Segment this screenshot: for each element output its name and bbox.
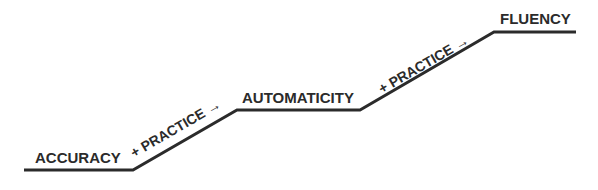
stage-label-accuracy: ACCURACY bbox=[35, 149, 121, 166]
stage-label-automaticity: AUTOMATICITY bbox=[242, 89, 354, 106]
transition-label-practice-1: + PRACTICE → bbox=[128, 96, 224, 161]
stage-label-fluency: FLUENCY bbox=[500, 10, 571, 27]
diagram-canvas: ACCURACY AUTOMATICITY FLUENCY + PRACTICE… bbox=[0, 0, 598, 190]
transition-label-practice-2: + PRACTICE → bbox=[376, 32, 472, 97]
staircase-diagram: ACCURACY AUTOMATICITY FLUENCY + PRACTICE… bbox=[0, 0, 598, 190]
